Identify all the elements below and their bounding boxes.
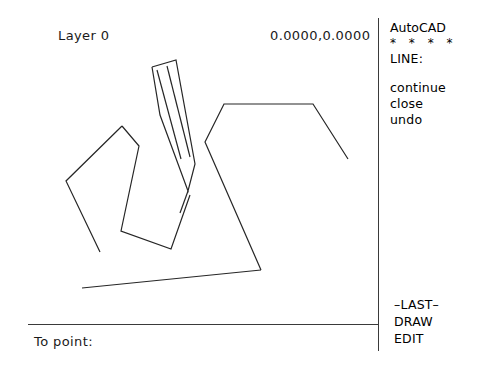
- screen-menu-item-continue[interactable]: continue: [390, 80, 474, 96]
- screen-menu-bottom[interactable]: –LAST– DRAW EDIT: [394, 296, 474, 347]
- screen-menu-item-last[interactable]: –LAST–: [394, 296, 474, 313]
- screen-menu-item-draw[interactable]: DRAW: [394, 313, 474, 330]
- right-polyline: [205, 104, 348, 270]
- pencil-cursor-inner-left: [157, 70, 181, 159]
- screen-menu-separator-asterisks[interactable]: * * * *: [390, 36, 474, 51]
- screen-menu-item-edit[interactable]: EDIT: [394, 330, 474, 347]
- left-polyline: [66, 126, 122, 252]
- drawing-area[interactable]: [0, 0, 378, 324]
- pencil-cursor-icon: [152, 60, 195, 213]
- pencil-cursor-body: [152, 60, 195, 191]
- autocad-screen: Layer 0 0.0000,0.0000 To point: AutoCAD …: [0, 0, 477, 367]
- middle-quadrilateral: [121, 126, 190, 249]
- screen-menu-spacer: [390, 67, 474, 80]
- screen-menu-active-command[interactable]: LINE:: [390, 51, 474, 67]
- command-prompt-text: To point:: [34, 334, 93, 349]
- bottom-diagonal-line: [82, 270, 261, 288]
- pencil-cursor-tip-line: [180, 191, 188, 213]
- horizontal-divider: [28, 324, 379, 325]
- screen-menu-item-undo[interactable]: undo: [390, 112, 474, 128]
- screen-menu-title[interactable]: AutoCAD: [390, 20, 474, 36]
- screen-menu-item-close[interactable]: close: [390, 96, 474, 112]
- drawing-canvas[interactable]: [0, 0, 378, 324]
- screen-menu[interactable]: AutoCAD * * * * LINE: continue close und…: [390, 20, 474, 128]
- vertical-divider: [378, 18, 379, 351]
